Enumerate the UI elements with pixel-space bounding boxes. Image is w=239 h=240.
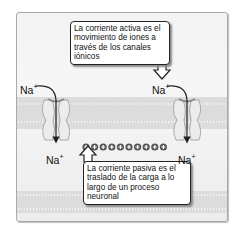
na-ion-label-right-bottom: Na+ <box>178 151 196 166</box>
callout-line: La corriente activa es el <box>74 24 166 33</box>
na-ion-label-right-top: Na+ <box>152 81 170 96</box>
passive-current-callout: La corriente pasiva es el traslado de la… <box>83 161 191 205</box>
active-current-callout: La corriente activa es el movimiento de … <box>70 21 170 65</box>
callout-line: través de los canales <box>74 43 166 52</box>
na-ion-label-left-bottom: Na+ <box>46 151 64 166</box>
na-ion-label-left-top: Na+ <box>20 81 38 96</box>
right-ion-channel <box>167 86 201 140</box>
callout-line: largo de un proceso <box>87 183 187 192</box>
callout-line: traslado de la carga a lo <box>87 173 187 182</box>
callout-line: iónicos <box>74 52 166 61</box>
left-ion-channel <box>36 86 70 140</box>
callout-line: La corriente pasiva es el <box>87 164 187 173</box>
positive-charges <box>82 143 167 150</box>
callout-line: movimiento de iones a <box>74 33 166 42</box>
callout-line: neuronal <box>87 192 187 201</box>
